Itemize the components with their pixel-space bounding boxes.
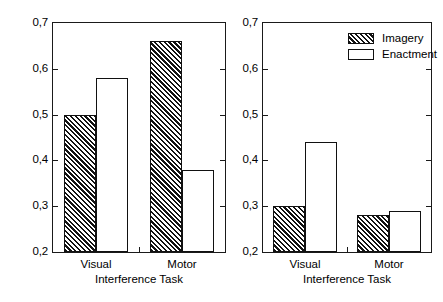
- x-tick-label-motor: Motor: [374, 258, 403, 271]
- y-tick-label: 0,6: [243, 63, 258, 75]
- bar-imagery-visual: [273, 206, 305, 252]
- panel-left: Proportion of Recalled Items Interferenc…: [0, 0, 230, 302]
- y-tick-label: 0,5: [33, 109, 48, 121]
- y-tick-mark: [220, 115, 225, 116]
- legend-item-imagery: Imagery: [348, 30, 437, 46]
- y-tick-mark: [220, 206, 225, 207]
- legend-swatch-imagery-icon: [348, 33, 374, 44]
- y-tick-label: 0,7: [33, 17, 48, 29]
- bar-enactment-motor: [389, 211, 421, 252]
- y-axis-title-left: Proportion of Recalled Items: [9, 0, 23, 35]
- y-tick-mark: [263, 115, 268, 116]
- y-tick-mark: [53, 115, 58, 116]
- y-tick-mark: [263, 160, 268, 161]
- x-axis-title-left: Interference Task: [95, 273, 183, 286]
- y-tick-mark: [263, 69, 268, 70]
- y-tick-label: 0,2: [243, 246, 258, 258]
- y-tick-mark: [53, 69, 58, 70]
- x-tick-label-visual: Visual: [289, 258, 320, 271]
- x-axis-title-right: Interference Task: [303, 273, 391, 286]
- x-tick-mark: [347, 247, 348, 252]
- bar-enactment-visual: [305, 142, 337, 252]
- bar-imagery-visual: [64, 115, 96, 252]
- y-tick-label: 0,5: [243, 109, 258, 121]
- legend: Imagery Enactment: [345, 27, 441, 65]
- legend-label-enactment: Enactment: [382, 48, 437, 60]
- y-tick-label: 0,3: [33, 200, 48, 212]
- plot-area-left: Interference Task 0,20,30,40,50,60,7Visu…: [52, 22, 226, 253]
- y-tick-mark: [426, 206, 431, 207]
- x-tick-label-visual: Visual: [80, 258, 111, 271]
- plot-area-right: Imagery Enactment Interference Task 0,20…: [262, 22, 432, 253]
- y-tick-mark: [426, 69, 431, 70]
- bar-imagery-motor: [357, 215, 389, 252]
- bar-enactment-motor: [182, 170, 214, 252]
- y-tick-label: 0,4: [33, 155, 48, 167]
- legend-swatch-enactment-icon: [348, 49, 374, 60]
- x-tick-mark: [139, 247, 140, 252]
- x-tick-label-motor: Motor: [167, 258, 196, 271]
- y-tick-label: 0,2: [33, 246, 48, 258]
- bar-imagery-motor: [150, 41, 182, 252]
- panel-right: Imagery Enactment Interference Task 0,20…: [228, 0, 443, 302]
- y-tick-label: 0,4: [243, 155, 258, 167]
- y-tick-mark: [426, 160, 431, 161]
- bar-enactment-visual: [96, 78, 128, 252]
- y-tick-label: 0,6: [33, 63, 48, 75]
- legend-label-imagery: Imagery: [382, 32, 424, 44]
- y-tick-mark: [263, 206, 268, 207]
- y-tick-label: 0,3: [243, 200, 258, 212]
- y-tick-mark: [426, 115, 431, 116]
- figure-two-panel-bar-chart: Proportion of Recalled Items Interferenc…: [0, 0, 443, 302]
- legend-item-enactment: Enactment: [348, 46, 437, 62]
- y-tick-mark: [53, 160, 58, 161]
- y-tick-mark: [53, 206, 58, 207]
- y-tick-mark: [220, 69, 225, 70]
- y-tick-label: 0,7: [243, 17, 258, 29]
- y-tick-mark: [220, 160, 225, 161]
